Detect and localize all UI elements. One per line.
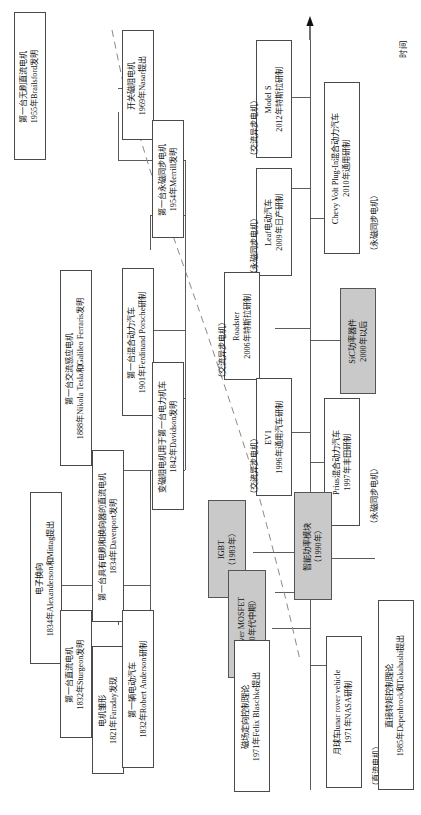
anno-prius: （永磁同步电机） <box>370 464 380 528</box>
node-merrill-text: 第一台永磁同步电机 1954年Merrill发明 <box>158 143 179 215</box>
node-roadster-text: Roadster 2006年特斯拉研制 <box>232 294 253 358</box>
anno-ev1: （交流异步电机） <box>250 434 260 498</box>
node-alexanderson-text: 电子换向 1834年Alexanderson和Mittag提出 <box>36 520 57 636</box>
node-porsche-text: 第一台混合动力汽车 1901年Ferdinand Porsche研制 <box>128 291 149 393</box>
node-tesla-text: 第一台交流感应电机 1888年Nikola Tesla和Galileo Ferr… <box>66 297 87 438</box>
node-faraday-text: 电机雏形 1821年Faraday发现 <box>98 677 119 744</box>
node-leaf[interactable]: Leaf电动汽车 2009年日产研制 <box>256 168 292 276</box>
node-ev1[interactable]: EV1 1996年通用汽车研制 <box>256 378 292 496</box>
node-porsche[interactable]: 第一台混合动力汽车 1901年Ferdinand Porsche研制 <box>122 268 154 416</box>
node-dtc-text: 直接转矩控制理论 1985年Depenbrock和Takahashi提出 <box>386 634 407 755</box>
node-prius-text: Prius混合动力汽车 1997年丰田研制 <box>332 430 353 495</box>
node-dtc[interactable]: 直接转矩控制理论 1985年Depenbrock和Takahashi提出 <box>378 600 414 790</box>
node-anderson-text: 第一辆电动汽车 1832年Robert Anderson研制 <box>128 641 149 737</box>
node-brailsford-text: 第一台无刷直流电机 1955年Brailsford发明 <box>20 49 41 123</box>
node-ipm[interactable]: 智能功率模块 （1990年） <box>294 492 332 600</box>
node-davidson-text: 变磁阻电机用于第一台电力机车 1842年Davidson发明 <box>158 380 179 492</box>
node-blaschke-text: 磁场定向控制理论 1971年Felix Blaschke提出 <box>242 671 263 760</box>
node-nasar-text: 开关磁阻电机 1969年Nasar提出 <box>128 55 149 114</box>
node-davidson[interactable]: 变磁阻电机用于第一台电力机车 1842年Davidson发明 <box>152 362 184 510</box>
node-blaschke[interactable]: 磁场定向控制理论 1971年Felix Blaschke提出 <box>234 640 270 792</box>
node-models-text: Model S 2012年特斯拉研制 <box>264 67 285 131</box>
anno-volt: （永磁同步电机） <box>370 191 380 255</box>
node-sturgeon[interactable]: 第一台直流电机 1832年Sturgeon发明 <box>60 610 92 738</box>
node-volt[interactable]: Chevy Volt Plug-In混合动力汽车 2010年通用研制 <box>324 82 360 254</box>
timeline-diagram: 第一台无刷直流电机 1955年Brailsford发明 开关磁阻电机 1969年… <box>0 0 421 815</box>
node-volt-text: Chevy Volt Plug-In混合动力汽车 2010年通用研制 <box>332 112 353 223</box>
node-lunar[interactable]: 月球车lunar rover vehicle 1971年NASA研制 <box>326 636 362 788</box>
node-sic[interactable]: SiC功率器件 2000年以后 <box>340 288 376 394</box>
time-axis-arrow <box>306 16 313 40</box>
node-anderson[interactable]: 第一辆电动汽车 1832年Robert Anderson研制 <box>122 610 154 768</box>
node-faraday[interactable]: 电机雏形 1821年Faraday发现 <box>92 646 124 774</box>
node-lunar-text: 月球车lunar rover vehicle 1971年NASA研制 <box>334 669 355 755</box>
node-brailsford[interactable]: 第一台无刷直流电机 1955年Brailsford发明 <box>14 12 46 160</box>
node-sturgeon-text: 第一台直流电机 1832年Sturgeon发明 <box>66 639 87 709</box>
node-models[interactable]: Model S 2012年特斯拉研制 <box>256 40 292 158</box>
node-merrill[interactable]: 第一台永磁同步电机 1954年Merrill发明 <box>152 120 184 238</box>
node-sic-text: SiC功率器件 2000年以后 <box>348 319 369 363</box>
node-ipm-text: 智能功率模块 （1990年） <box>303 522 324 570</box>
anno-models: （交流异步电机） <box>250 96 260 160</box>
node-davenport-text: 第一台具有电刷和换向器的直流电机 1834年Davenport发明 <box>98 472 119 600</box>
time-axis-label: 时间 <box>396 40 408 58</box>
anno-roadster: （交流异步电机） <box>218 318 228 382</box>
node-ev1-text: EV1 1996年通用汽车研制 <box>264 401 285 473</box>
node-nasar[interactable]: 开关磁阻电机 1969年Nasar提出 <box>122 30 154 140</box>
node-alexanderson[interactable]: 电子换向 1834年Alexanderson和Mittag提出 <box>30 492 62 664</box>
node-roadster[interactable]: Roadster 2006年特斯拉研制 <box>224 272 260 380</box>
node-tesla[interactable]: 第一台交流感应电机 1888年Nikola Tesla和Galileo Ferr… <box>60 270 92 466</box>
anno-leaf: （永磁同步电机） <box>250 214 260 278</box>
node-igbt-text: IGBT （1983年） <box>217 529 238 569</box>
node-leaf-text: Leaf电动汽车 2009年日产研制 <box>264 194 285 250</box>
node-davenport[interactable]: 第一台具有电刷和换向器的直流电机 1834年Davenport发明 <box>92 450 124 622</box>
